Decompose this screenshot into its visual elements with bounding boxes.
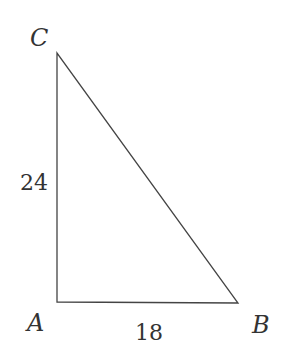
vertex-label-b: B: [251, 311, 270, 339]
triangle-abc: [57, 53, 238, 303]
triangle-diagram: C A B 24 18: [0, 0, 284, 356]
side-label-ac: 24: [20, 170, 48, 195]
vertex-label-c: C: [30, 24, 48, 52]
vertex-label-a: A: [25, 309, 44, 337]
side-label-ab: 18: [135, 320, 163, 345]
